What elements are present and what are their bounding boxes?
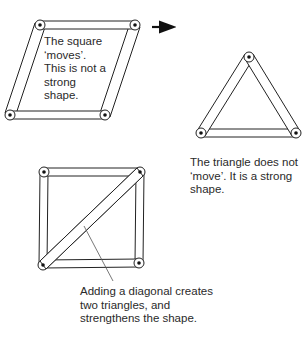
caption-line: strong: [44, 76, 106, 90]
caption-line: The triangle does not: [190, 156, 298, 170]
caption-line: shape.: [44, 89, 106, 103]
caption-line: ‘move’. It is a strong: [190, 170, 298, 184]
leader-line: [84, 226, 113, 281]
square-caption: The square ‘moves’. This is not a strong…: [44, 35, 106, 103]
triangle-caption: The triangle does not ‘move’. It is a st…: [190, 156, 298, 197]
caption-line: ‘moves’.: [44, 49, 106, 63]
triangle-frame: [196, 52, 301, 138]
caption-line: two triangles, and: [80, 299, 213, 313]
braced-square-frame: [38, 167, 145, 270]
caption-line: This is not a: [44, 62, 106, 76]
caption-line: Adding a diagonal creates: [80, 285, 213, 299]
diagonal-caption: Adding a diagonal creates two triangles,…: [80, 285, 213, 326]
caption-line: shape.: [190, 183, 298, 197]
caption-line: strengthens the shape.: [80, 312, 213, 326]
caption-line: The square: [44, 35, 106, 49]
